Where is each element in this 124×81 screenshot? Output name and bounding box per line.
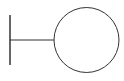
boundary-symbol <box>0 0 124 81</box>
boundary-circle <box>54 8 119 73</box>
